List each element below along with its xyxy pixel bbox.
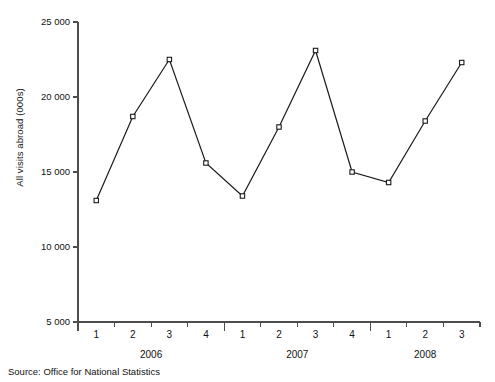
x-axis-year-labels: 200620072008: [0, 0, 495, 382]
source-note: Source: Office for National Statistics: [8, 366, 160, 377]
x-axis-year-label: 2006: [116, 349, 186, 360]
chart-container: All visits abroad (000s) 25 00020 00015 …: [0, 0, 495, 382]
x-axis-year-label: 2008: [390, 349, 460, 360]
x-axis-year-label: 2007: [262, 349, 332, 360]
